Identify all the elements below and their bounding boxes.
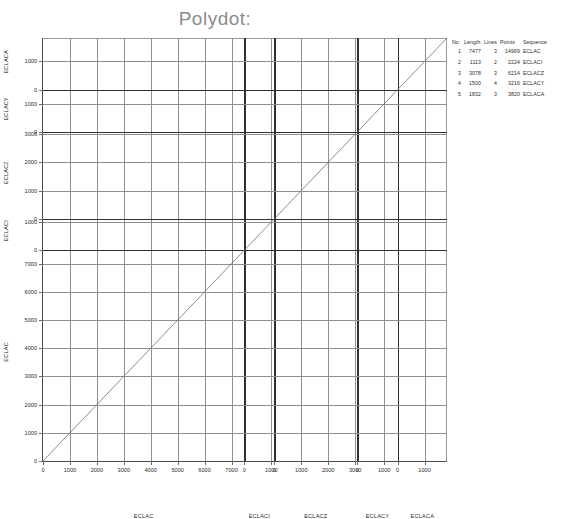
x-axis-tick-label: 7000: [225, 467, 237, 473]
x-axis-tick-label: 4000: [144, 467, 156, 473]
polydot-plot-area: 01000200030004000500060007000ECLAC01000E…: [42, 38, 447, 462]
x-axis-tick: [97, 461, 98, 465]
x-axis-tick-label: 0: [356, 467, 359, 473]
table-row: 5 1832 3 3820 ECLACA: [452, 92, 550, 103]
y-axis-tick-label: 1000: [25, 188, 37, 194]
legend-table: No. Length Lines Points Sequence 1 7477 …: [452, 40, 550, 103]
x-axis-sequence-label: ECLACZ: [304, 513, 327, 519]
y-axis-tick: [39, 461, 43, 462]
cell-points: 2224: [500, 60, 523, 71]
y-axis-sequence-label: ECLACZ: [3, 161, 9, 184]
x-axis-tick-label: 1000: [378, 467, 390, 473]
y-axis-sequence-label: ECLACY: [3, 97, 9, 121]
x-axis-tick: [328, 461, 329, 465]
y-axis-tick-label: 2000: [25, 402, 37, 408]
y-axis-tick-label: 6000: [25, 289, 37, 295]
x-axis-tick: [355, 461, 356, 465]
x-axis-tick: [425, 461, 426, 465]
legend-body: 1 7477 3 14969 ECLAC 2 1113 2 2224 ECLAC…: [452, 49, 550, 103]
x-axis-tick: [398, 461, 399, 465]
y-axis-tick-label: 2000: [25, 159, 37, 165]
x-axis-tick-label: 3000: [118, 467, 130, 473]
x-axis-tick-label: 6000: [198, 467, 210, 473]
diagonal-match-lines: [43, 38, 447, 461]
diagonal-line: [398, 38, 447, 90]
y-axis-tick-label: 0: [34, 247, 37, 253]
table-row: 2 1113 2 2224 ECLACI: [452, 60, 550, 71]
x-axis-tick-label: 2000: [322, 467, 334, 473]
diagonal-line: [274, 132, 357, 219]
y-axis-sequence-label: ECLACA: [3, 50, 9, 74]
diagonal-line: [43, 250, 244, 461]
x-axis-tick-label: 0: [243, 467, 246, 473]
x-axis-tick-label: 1000: [418, 467, 430, 473]
x-axis-sequence-label: ECLACY: [366, 513, 390, 519]
x-axis-tick: [274, 461, 275, 465]
x-axis-tick: [43, 461, 44, 465]
y-axis-tick-label: 3000: [25, 131, 37, 137]
sequence-summary-table: No. Length Lines Points Sequence 1 7477 …: [452, 40, 550, 103]
y-axis-sequence-label: ECLACI: [3, 220, 9, 241]
cell-no: 5: [452, 92, 464, 103]
page-title: Polydot:: [0, 8, 430, 30]
x-axis-tick: [232, 461, 233, 465]
cell-lines: 3: [484, 49, 500, 60]
x-axis-tick-label: 2000: [91, 467, 103, 473]
x-axis-sequence-label: ECLAC: [134, 513, 154, 519]
x-axis-tick: [301, 461, 302, 465]
x-axis-tick: [151, 461, 152, 465]
cell-lines: 3: [484, 71, 500, 82]
x-axis-tick-label: 0: [396, 467, 399, 473]
cell-length: 1832: [464, 92, 484, 103]
y-axis-tick-label: 5000: [25, 317, 37, 323]
cell-points: 3820: [500, 92, 523, 103]
cell-sequence: ECLACI: [523, 60, 550, 71]
x-axis-tick: [178, 461, 179, 465]
x-axis-tick-label: 1000: [295, 467, 307, 473]
x-axis-tick: [205, 461, 206, 465]
y-axis-tick-label: 1000: [25, 430, 37, 436]
col-lines: Lines: [484, 40, 500, 49]
x-axis-tick-label: 1000: [64, 467, 76, 473]
x-axis-tick-label: 0: [41, 467, 44, 473]
x-axis-tick: [357, 461, 358, 465]
cell-no: 2: [452, 60, 464, 71]
x-axis-sequence-label: ECLACI: [249, 513, 270, 519]
y-axis-tick-label: 1000: [25, 58, 37, 64]
x-axis-tick-label: 0: [273, 467, 276, 473]
x-axis-tick: [124, 461, 125, 465]
cell-lines: 4: [484, 81, 500, 92]
diagonal-line: [244, 219, 274, 250]
x-axis-tick: [384, 461, 385, 465]
y-axis-tick-label: 3000: [25, 373, 37, 379]
y-axis-tick-label: 1000: [25, 219, 37, 225]
x-axis-tick: [244, 461, 245, 465]
y-axis-sequence-label: ECLAC: [3, 342, 9, 362]
y-axis-tick-label: 1000: [25, 101, 37, 107]
diagonal-line: [357, 90, 397, 132]
y-axis-tick-label: 0: [34, 87, 37, 93]
cell-length: 1113: [464, 60, 484, 71]
x-axis-tick: [70, 461, 71, 465]
cell-lines: 2: [484, 60, 500, 71]
x-axis-tick: [271, 461, 272, 465]
y-axis-tick-label: 0: [34, 458, 37, 464]
cell-sequence: ECLACA: [523, 92, 550, 103]
x-axis-tick-label: 5000: [171, 467, 183, 473]
x-axis-sequence-label: ECLACA: [411, 513, 435, 519]
y-axis-tick-label: 4000: [25, 345, 37, 351]
cell-lines: 3: [484, 92, 500, 103]
y-axis-tick-label: 7000: [25, 261, 37, 267]
